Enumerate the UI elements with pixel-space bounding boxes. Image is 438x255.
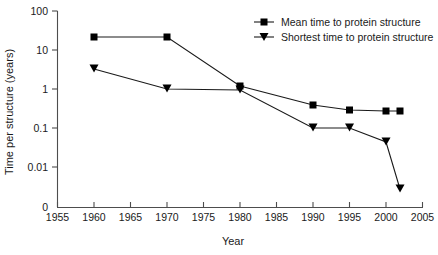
data-point-marker bbox=[383, 108, 390, 115]
x-tick-label-2005: 2005 bbox=[411, 211, 435, 223]
legend-square-icon bbox=[261, 19, 268, 26]
series-shortest-time-line bbox=[94, 69, 400, 189]
x-tick-label-1960: 1960 bbox=[82, 211, 106, 223]
data-point-marker bbox=[396, 185, 405, 193]
y-tick-label-10: 10 bbox=[36, 44, 48, 56]
x-tick-label-1985: 1985 bbox=[265, 211, 289, 223]
data-point-marker bbox=[91, 34, 98, 41]
y-axis-title: Time per structure (years) bbox=[3, 49, 15, 175]
series-shortest-time bbox=[90, 65, 405, 193]
legend-item-mean-time[interactable]: Mean time to protein structure bbox=[254, 16, 421, 28]
x-tick-label-1955: 1955 bbox=[46, 211, 70, 223]
data-point-marker bbox=[382, 138, 391, 146]
line-chart: 100 10 1 0.1 0.01 0 Time per structure (… bbox=[0, 0, 438, 255]
y-axis: 100 10 1 0.1 0.01 0 Time per structure (… bbox=[3, 5, 58, 213]
data-point-marker bbox=[310, 102, 317, 109]
legend-item-shortest-time[interactable]: Shortest time to protein structure bbox=[254, 31, 433, 43]
chart-container: 100 10 1 0.1 0.01 0 Time per structure (… bbox=[0, 0, 438, 255]
y-tick-label-0.1: 0.1 bbox=[33, 122, 48, 134]
chart-legend: Mean time to protein structure Shortest … bbox=[254, 16, 433, 43]
x-tick-label-1975: 1975 bbox=[192, 211, 216, 223]
x-axis: 1955 1960 1965 1970 1975 1980 1985 1990 … bbox=[46, 202, 435, 247]
y-tick-label-100: 100 bbox=[30, 5, 48, 17]
series-mean-time bbox=[91, 34, 404, 115]
x-tick-label-1990: 1990 bbox=[301, 211, 325, 223]
y-tick-label-0.01: 0.01 bbox=[28, 161, 49, 173]
x-tick-label-2000: 2000 bbox=[374, 211, 398, 223]
series-mean-time-line bbox=[94, 37, 400, 111]
data-point-marker bbox=[346, 107, 353, 114]
data-point-marker bbox=[397, 108, 404, 115]
legend-label-mean-time: Mean time to protein structure bbox=[281, 16, 421, 28]
y-tick-label-1: 1 bbox=[42, 83, 48, 95]
x-tick-label-1995: 1995 bbox=[338, 211, 362, 223]
data-point-marker bbox=[164, 34, 171, 41]
data-point-marker bbox=[90, 65, 99, 73]
x-tick-label-1980: 1980 bbox=[228, 211, 252, 223]
x-tick-label-1965: 1965 bbox=[119, 211, 143, 223]
legend-label-shortest-time: Shortest time to protein structure bbox=[281, 31, 433, 43]
x-axis-title: Year bbox=[222, 235, 245, 247]
x-tick-label-1970: 1970 bbox=[155, 211, 179, 223]
